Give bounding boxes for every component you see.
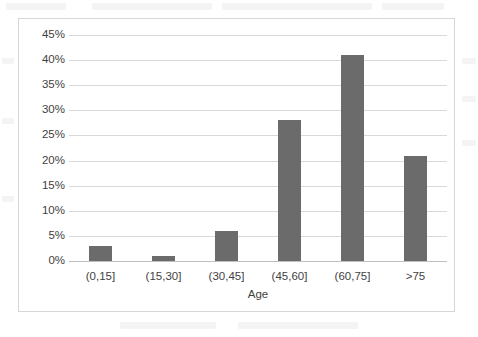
page-bleed-text <box>222 3 372 10</box>
y-axis-tick-label: 25% <box>23 129 65 140</box>
x-axis-tick-label: (15,30] <box>132 269 195 283</box>
chart-plot-area: (0,15](15,30](30,45](45,60](60,75]>75 Ag… <box>69 19 447 313</box>
page-bleed-text <box>2 58 14 64</box>
bar[interactable] <box>215 231 238 261</box>
page-bleed-text <box>2 118 14 124</box>
page-bleed-text <box>92 3 212 10</box>
x-axis-tick-labels: (0,15](15,30](30,45](45,60](60,75]>75 <box>69 269 447 287</box>
x-axis-title: Age <box>69 287 447 301</box>
y-axis-tick-label: 30% <box>23 104 65 115</box>
page-bleed-text <box>462 58 476 64</box>
bar[interactable] <box>152 256 175 261</box>
x-axis-tick-label: (30,45] <box>195 269 258 283</box>
page-bleed-text <box>2 196 14 202</box>
page-bleed-text <box>382 3 444 10</box>
bar[interactable] <box>89 246 112 261</box>
x-axis-tick-label: (0,15] <box>69 269 132 283</box>
y-axis-tick-label: 40% <box>23 54 65 65</box>
x-axis-tick-label: (60,75] <box>321 269 384 283</box>
y-axis-tick-label: 5% <box>23 230 65 241</box>
x-axis-tick-label: (45,60] <box>258 269 321 283</box>
y-axis-tick-label: 35% <box>23 79 65 90</box>
page-bleed-text <box>238 322 358 329</box>
y-axis-tick-label: 15% <box>23 180 65 191</box>
y-axis-tick-labels: 0%5%10%15%20%25%30%35%40%45% <box>19 19 65 313</box>
bar[interactable] <box>278 120 301 261</box>
bar[interactable] <box>404 156 427 261</box>
chart-frame: 0%5%10%15%20%25%30%35%40%45% (0,15](15,3… <box>18 18 455 312</box>
page-bleed-text <box>462 140 476 146</box>
y-axis-tick-label: 20% <box>23 155 65 166</box>
page-bleed-text <box>120 322 216 329</box>
y-axis-tick-label: 45% <box>23 29 65 40</box>
x-axis-tick-label: >75 <box>384 269 447 283</box>
chart-plot-wrapper: 0%5%10%15%20%25%30%35%40%45% (0,15](15,3… <box>19 19 456 313</box>
page-bleed-text <box>462 96 476 102</box>
y-axis-tick-label: 10% <box>23 205 65 216</box>
y-axis-tick-label: 0% <box>23 255 65 266</box>
page-bleed-text <box>6 3 66 10</box>
bar[interactable] <box>341 55 364 261</box>
